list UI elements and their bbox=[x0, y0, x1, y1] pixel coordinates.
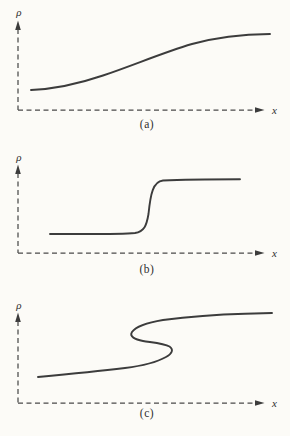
x-axis-arrow-icon bbox=[255, 400, 265, 406]
y-axis-arrow-icon bbox=[15, 313, 21, 323]
x-axis-label: x bbox=[271, 104, 277, 116]
y-axis-arrow-icon bbox=[15, 165, 21, 175]
panel-caption-c: (c) bbox=[140, 407, 154, 420]
x-axis-label: x bbox=[271, 397, 277, 409]
panel-b: ρ x (b) bbox=[15, 151, 277, 276]
y-axis-arrow-icon bbox=[15, 21, 21, 31]
x-axis-arrow-icon bbox=[255, 107, 265, 113]
density-curve-a bbox=[31, 34, 270, 90]
panel-caption-a: (a) bbox=[140, 118, 154, 131]
panel-c: ρ x (c) bbox=[15, 299, 277, 420]
density-profile-figure: ρ x (a) ρ x (b) ρ x (c) bbox=[0, 0, 290, 436]
panel-caption-b: (b) bbox=[140, 263, 155, 276]
x-axis-arrow-icon bbox=[255, 250, 265, 256]
y-axis-label: ρ bbox=[15, 299, 21, 311]
density-curve-c bbox=[38, 313, 272, 377]
panel-a: ρ x (a) bbox=[15, 6, 277, 131]
y-axis-label: ρ bbox=[15, 151, 21, 163]
y-axis-label: ρ bbox=[15, 6, 21, 18]
x-axis-label: x bbox=[271, 247, 277, 259]
density-curve-b bbox=[50, 179, 240, 234]
figure-canvas: ρ x (a) ρ x (b) ρ x (c) bbox=[0, 0, 290, 436]
